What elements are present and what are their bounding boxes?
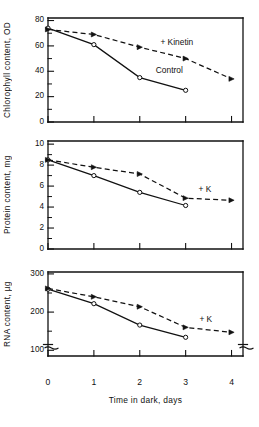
x-axis-label: Time in dark, days (48, 395, 243, 405)
series-line-bottom-0 (48, 289, 186, 337)
series-label-middle-1: + K (198, 185, 211, 193)
series-label-top-0: Control (156, 66, 183, 74)
data-point-marker (138, 76, 142, 80)
data-point-marker (138, 190, 142, 194)
data-point-marker (229, 330, 234, 335)
data-point-marker (137, 45, 142, 50)
series-label-top-1: + Kinetin (160, 38, 193, 46)
x-tick-label: 2 (130, 378, 150, 387)
data-point-marker (184, 88, 188, 92)
plot-area-middle (0, 141, 259, 289)
data-point-marker (229, 76, 234, 81)
data-point-marker (91, 165, 96, 170)
x-tick-label: 1 (84, 378, 104, 387)
data-point-marker (92, 174, 96, 178)
series-label-bottom-1: + K (199, 315, 212, 323)
data-point-marker (91, 294, 96, 299)
x-tick-label: 0 (38, 378, 58, 387)
data-point-marker (183, 56, 188, 61)
data-point-marker (183, 196, 188, 201)
series-line-top-1 (48, 29, 232, 78)
data-point-marker (184, 335, 188, 339)
data-point-marker (184, 203, 188, 207)
x-tick-label: 3 (176, 378, 196, 387)
x-tick-label: 4 (222, 378, 242, 387)
data-point-marker (138, 323, 142, 327)
data-point-marker (137, 304, 142, 309)
series-line-middle-0 (48, 160, 186, 206)
data-point-marker (183, 325, 188, 330)
data-point-marker (91, 32, 96, 37)
data-point-marker (92, 302, 96, 306)
figure-container: Chlorophyll content, OD020406080Control+… (0, 0, 259, 427)
data-point-marker (92, 43, 96, 47)
data-point-marker (137, 172, 142, 177)
data-point-marker (229, 198, 234, 203)
